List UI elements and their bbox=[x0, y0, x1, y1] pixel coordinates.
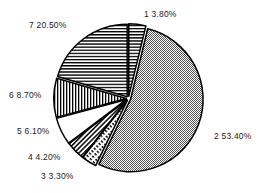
pie-slices-group bbox=[54, 24, 203, 172]
pie-label-1: 1 3.80% bbox=[144, 10, 177, 19]
pie-chart: 1 3.80% 2 53.40% 3 3.30% 4 4.20% 5 6.10%… bbox=[0, 0, 266, 193]
pie-label-2: 2 53.40% bbox=[214, 132, 252, 141]
pie-label-7: 7 20.50% bbox=[29, 21, 67, 30]
pie-label-3: 3 3.30% bbox=[41, 172, 74, 181]
pie-label-5: 5 6.10% bbox=[17, 127, 50, 136]
pie-label-6: 6 8.70% bbox=[9, 91, 42, 100]
pie-label-4: 4 4.20% bbox=[28, 153, 61, 162]
